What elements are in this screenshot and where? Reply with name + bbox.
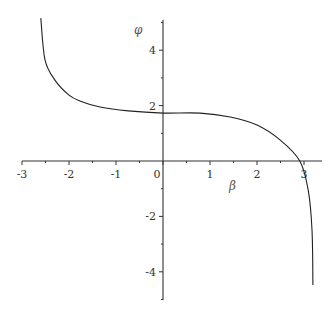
axes	[22, 20, 322, 300]
y-tick-label: -4	[145, 266, 156, 279]
x-tick-label: -1	[111, 168, 122, 181]
x-tick-label: 1	[207, 168, 214, 181]
line-chart: -3-2-1012342-2-4 β φ	[0, 0, 335, 320]
x-tick-label: -3	[17, 168, 28, 181]
y-tick-label: -2	[145, 210, 156, 223]
y-tick-label: 2	[149, 100, 156, 113]
y-axis-label: φ	[134, 23, 143, 37]
x-tick-label: 2	[254, 168, 261, 181]
x-tick-label: 0	[154, 168, 161, 181]
x-axis-label: β	[228, 179, 236, 193]
data-curve	[41, 18, 313, 285]
y-tick-label: 4	[149, 44, 156, 57]
x-tick-label: -2	[64, 168, 75, 181]
